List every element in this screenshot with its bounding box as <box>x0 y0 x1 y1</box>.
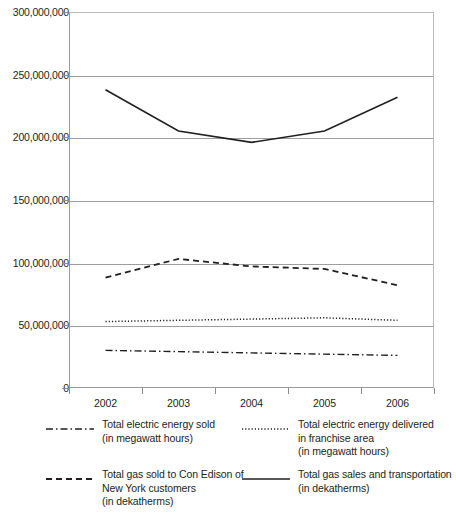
x-axis-tick-mark <box>69 388 70 394</box>
chart-legend: Total electric energy sold (in megawatt … <box>0 418 444 515</box>
series-line-2 <box>106 259 398 285</box>
y-axis-tick-label: 250,000,000 <box>5 69 69 81</box>
y-axis-tick-label: 150,000,000 <box>5 194 69 206</box>
dash-dot-line-swatch <box>46 424 94 434</box>
y-axis-tick-label: 200,000,000 <box>5 131 69 143</box>
series-line-3 <box>106 90 398 143</box>
x-axis-tick-mark <box>288 388 289 394</box>
y-axis-tick-label: 100,000,000 <box>5 257 69 269</box>
x-axis-tick-label: 2003 <box>167 397 190 409</box>
plot-wrapper: 050,000,000100,000,000150,000,000200,000… <box>0 0 444 400</box>
x-axis-tick-mark <box>361 388 362 394</box>
x-axis-tick-label: 2004 <box>240 397 263 409</box>
x-axis-tick-label: 2005 <box>313 397 336 409</box>
dotted-line-swatch <box>242 424 290 434</box>
x-axis-tick-mark <box>215 388 216 394</box>
legend-label: Total gas sales and transportation (in d… <box>298 468 456 495</box>
solid-line-swatch <box>242 474 290 484</box>
x-axis-tick-mark <box>434 388 435 394</box>
legend-label: Total electric energy delivered in franc… <box>298 418 456 459</box>
x-axis-tick-mark <box>142 388 143 394</box>
series-line-1 <box>106 318 398 322</box>
y-axis-tick-label: 300,000,000 <box>5 6 69 18</box>
y-axis: 050,000,000100,000,000150,000,000200,000… <box>0 0 69 400</box>
y-axis-tick-label: 50,000,000 <box>5 319 69 331</box>
y-axis-tick-label: 0 <box>5 382 69 394</box>
x-axis-tick-label: 2006 <box>386 397 409 409</box>
series-line-0 <box>106 350 398 355</box>
x-axis: 20022003200420052006 <box>69 388 434 414</box>
x-axis-tick-label: 2002 <box>94 397 117 409</box>
dashed-line-swatch <box>46 474 94 484</box>
series-layer <box>69 12 434 388</box>
